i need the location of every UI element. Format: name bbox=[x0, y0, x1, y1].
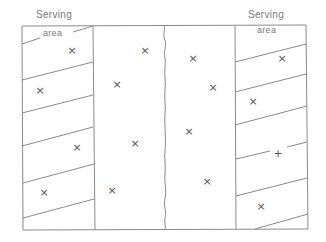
right-diagonal-3 bbox=[235, 106, 307, 125]
right-serving-area-boundary bbox=[235, 25, 236, 229]
seat-mark-icon: × bbox=[107, 185, 116, 196]
seat-mark-icon: × bbox=[39, 187, 48, 198]
left-diagonal-3 bbox=[22, 95, 93, 113]
left-serving-label: Serving bbox=[36, 10, 72, 20]
seat-mark-icon: + bbox=[273, 148, 282, 159]
right-diagonal-1 bbox=[235, 44, 306, 62]
seat-mark-icon: × bbox=[188, 53, 197, 64]
right-diagonal-2 bbox=[235, 74, 306, 92]
right-diagonal-4a bbox=[236, 151, 270, 159]
left-area-label: area bbox=[43, 29, 62, 38]
seat-mark-icon: × bbox=[184, 126, 193, 137]
center-divider-wavy-line bbox=[164, 25, 166, 230]
right-area-label: area bbox=[257, 26, 276, 35]
left-diagonal-5 bbox=[23, 164, 94, 183]
right-serving-label: Serving bbox=[248, 10, 284, 20]
seat-mark-icon: × bbox=[256, 201, 265, 212]
left-diagonal-2 bbox=[22, 62, 93, 80]
seat-mark-icon: × bbox=[140, 45, 149, 56]
seat-mark-icon: × bbox=[277, 53, 286, 64]
seat-mark-icon: × bbox=[208, 82, 217, 93]
right-diagonal-6 bbox=[255, 214, 308, 229]
frame-left-line bbox=[22, 26, 23, 230]
left-diagonal-1a bbox=[22, 38, 40, 44]
left-diagonal-1b bbox=[73, 26, 93, 32]
left-diagonal-6 bbox=[23, 199, 94, 218]
seat-mark-icon: × bbox=[35, 85, 44, 96]
seat-mark-icon: × bbox=[248, 96, 257, 107]
frame-right-line bbox=[306, 25, 308, 229]
seat-mark-icon: × bbox=[202, 176, 211, 187]
seat-mark-icon: × bbox=[72, 142, 81, 153]
seat-mark-icon: × bbox=[112, 79, 121, 90]
right-diagonal-4b bbox=[287, 142, 307, 147]
seating-layout-diagram: Serving area Serving area ××××××××××××××… bbox=[0, 0, 326, 242]
right-diagonal-5 bbox=[236, 178, 307, 196]
left-diagonal-4 bbox=[22, 127, 93, 146]
seat-mark-icon: × bbox=[67, 45, 76, 56]
seat-mark-icon: × bbox=[130, 138, 139, 149]
